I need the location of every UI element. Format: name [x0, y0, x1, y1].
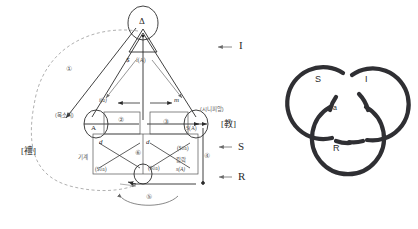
bracket-gyo: [教]	[221, 120, 236, 129]
ring-I-arc-a	[352, 68, 409, 140]
matheme-s-of-A: s(A)	[176, 167, 185, 173]
register-label-R: R	[238, 171, 245, 182]
step-four: ④	[204, 153, 210, 160]
label-dollar: $	[126, 57, 130, 64]
upper-boxes	[104, 112, 188, 134]
step-two: ②	[118, 117, 124, 124]
node-SA-label: S(A)	[186, 126, 197, 132]
borromean-knot-vector	[287, 67, 408, 174]
knot-label-R: R	[333, 144, 340, 153]
knot-label-I: I	[365, 75, 368, 84]
bracket-li: [禮]	[21, 147, 36, 156]
matheme-phi-a-mid: ($◊a)	[148, 166, 160, 172]
label-f-of-A: f(A)	[136, 58, 145, 64]
label-pleasure-korean: 캌락	[176, 158, 186, 164]
register-label-S: S	[238, 141, 244, 152]
label-i-of-a: i(a)	[99, 98, 107, 104]
label-machine-korean: 기계	[78, 155, 88, 161]
step-three: ③	[163, 119, 169, 126]
knot-label-S: S	[315, 75, 321, 84]
ring-R-arc-b	[359, 94, 368, 110]
apex-dot	[142, 35, 145, 38]
matheme-phi-a-right: ($◊a)	[177, 146, 189, 152]
step-six: ⑥	[135, 150, 141, 157]
delta-symbol: Δ	[139, 17, 145, 26]
label-d-right: d	[146, 139, 150, 146]
dashed-return-loop	[31, 30, 138, 191]
label-voice-korean: (목소리)	[55, 113, 74, 119]
label-d-left: d	[99, 139, 103, 146]
gray-inner-arrows	[106, 60, 182, 98]
register-label-I: I	[239, 40, 243, 51]
matheme-phi-a-left: ($◊a)	[95, 167, 107, 173]
main-triangle	[92, 33, 196, 117]
label-signifier-korean: (시니피앙)	[200, 107, 224, 113]
label-m: m	[174, 97, 179, 104]
figure-canvas: Δ $ f(A) i(a) m A S(A) (목소리) (시니피앙) d d …	[0, 0, 418, 229]
node-A-label: A	[91, 125, 96, 132]
step-five: ⑤	[146, 194, 152, 201]
ring-I-arc-b	[349, 141, 363, 142]
step-one: ①	[66, 66, 72, 73]
knot-center-label-a: a	[333, 104, 337, 111]
